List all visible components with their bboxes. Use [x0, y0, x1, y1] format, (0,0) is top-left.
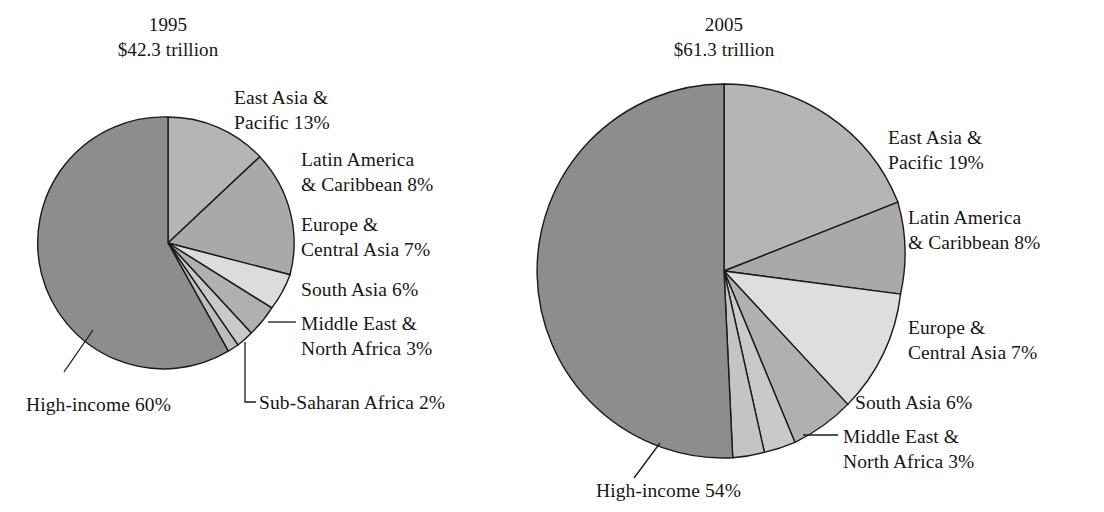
chart-1995-title-year: 1995: [52, 12, 284, 37]
slice-high-income-2005[interactable]: [537, 84, 733, 458]
label-middle-east-north-africa-1995: Middle East & North Africa 3%: [301, 311, 432, 361]
label-south-asia-2005: South Asia 6%: [855, 390, 972, 415]
chart-2005-title-year: 2005: [608, 12, 840, 37]
label-europe-central-asia-1995: Europe & Central Asia 7%: [301, 212, 430, 262]
chart-1995-title-total: $42.3 trillion: [52, 37, 284, 62]
label-high-income-1995: High-income 60%: [26, 392, 171, 417]
label-middle-east-north-africa-2005: Middle East & North Africa 3%: [843, 424, 974, 474]
label-high-income-2005: High-income 54%: [596, 478, 741, 503]
label-east-asia-pacific-2005: East Asia & Pacific 19%: [888, 125, 984, 175]
label-sub-saharan-africa-1995: Sub-Saharan Africa 2%: [259, 390, 445, 415]
leader-line-sub-saharan-1995: [245, 342, 256, 402]
pie-1995-slices: [38, 117, 294, 369]
label-south-asia-1995: South Asia 6%: [301, 277, 418, 302]
leader-line-high-income-2005: [634, 443, 660, 478]
label-east-asia-pacific-1995: East Asia & Pacific 13%: [234, 85, 330, 135]
label-latin-america-caribbean-2005: Latin America & Caribbean 8%: [908, 205, 1040, 255]
pie-2005-slices: [537, 84, 905, 458]
label-latin-america-caribbean-1995: Latin America & Caribbean 8%: [301, 147, 433, 197]
chart-2005-title-total: $61.3 trillion: [608, 37, 840, 62]
label-europe-central-asia-2005: Europe & Central Asia 7%: [908, 315, 1037, 365]
pie-charts-figure: 1995 $42.3 trillion East Asia & Pacific …: [0, 0, 1104, 512]
